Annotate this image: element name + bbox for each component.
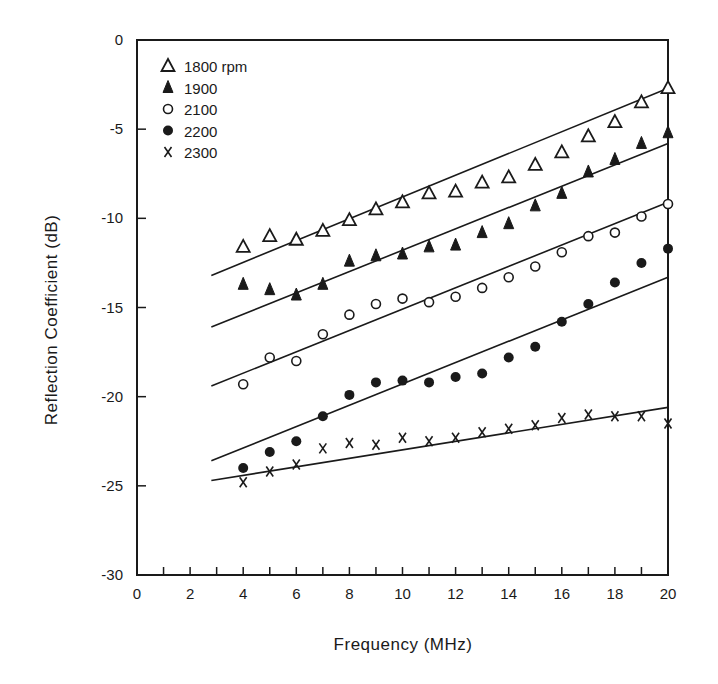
x-tick-label: 18 <box>607 585 624 602</box>
fit-line <box>211 202 668 386</box>
fit-line <box>211 277 668 461</box>
x-tick-label: 16 <box>553 585 570 602</box>
marker-filled-circle <box>663 244 673 254</box>
marker-open-triangle <box>162 59 175 71</box>
legend-label: 2300 <box>184 144 217 161</box>
marker-filled-triangle <box>663 126 673 138</box>
y-axis-title: Reflection Coefficient (dB) <box>42 215 61 426</box>
marker-open-triangle <box>369 202 382 214</box>
marker-filled-triangle <box>163 81 173 93</box>
marker-open-triangle <box>582 129 595 141</box>
marker-open-triangle <box>662 81 675 93</box>
marker-open-circle <box>239 380 248 389</box>
legend-item: 1800 rpm <box>162 58 248 75</box>
x-axis-ticks: 02468101214161820 <box>133 567 677 602</box>
marker-x <box>585 410 592 420</box>
marker-x <box>293 459 300 469</box>
marker-filled-circle <box>636 258 646 268</box>
marker-open-triangle <box>263 229 276 241</box>
legend: 1800 rpm1900210022002300 <box>162 58 248 161</box>
marker-filled-circle <box>557 317 567 327</box>
marker-filled-circle <box>163 126 173 136</box>
marker-open-circle <box>637 212 646 221</box>
y-axis-ticks: 0-5-10-15-20-25-30 <box>101 31 146 583</box>
marker-filled-triangle <box>504 217 514 229</box>
marker-x <box>346 438 353 448</box>
y-tick-label: -30 <box>101 566 123 583</box>
marker-filled-circle <box>318 411 328 421</box>
marker-filled-circle <box>398 376 408 386</box>
marker-open-triangle <box>316 224 329 236</box>
legend-label: 1800 rpm <box>184 58 247 75</box>
marker-open-triangle <box>608 115 621 127</box>
marker-x <box>372 440 379 450</box>
marker-open-triangle <box>343 213 356 225</box>
marker-filled-triangle <box>477 226 487 238</box>
marker-open-circle <box>610 228 619 237</box>
x-axis-title: Frequency (MHz) <box>334 635 473 654</box>
fit-line <box>211 88 668 275</box>
marker-open-circle <box>584 232 593 241</box>
fit-line <box>211 407 668 480</box>
y-tick-label: -10 <box>101 209 123 226</box>
marker-filled-triangle <box>265 283 275 295</box>
marker-open-circle <box>451 292 460 301</box>
marker-filled-triangle <box>530 199 540 211</box>
marker-filled-circle <box>291 436 301 446</box>
marker-x <box>426 436 433 446</box>
x-tick-label: 4 <box>239 585 247 602</box>
marker-filled-circle <box>344 390 354 400</box>
marker-filled-circle <box>610 278 620 288</box>
fit-lines <box>211 88 668 480</box>
series-2300 <box>240 410 672 488</box>
y-tick-label: -5 <box>110 120 123 137</box>
marker-open-triangle <box>449 185 462 197</box>
marker-filled-circle <box>424 377 434 387</box>
x-tick-label: 8 <box>345 585 353 602</box>
marker-filled-triangle <box>636 136 646 148</box>
marker-open-circle <box>371 299 380 308</box>
x-tick-label: 0 <box>133 585 141 602</box>
marker-filled-circle <box>371 377 381 387</box>
marker-x <box>638 411 645 421</box>
marker-open-triangle <box>237 240 250 252</box>
marker-open-circle <box>345 310 354 319</box>
marker-x <box>558 413 565 423</box>
chart-figure: 02468101214161820 0-5-10-15-20-25-30 180… <box>0 0 718 684</box>
marker-x <box>240 477 247 487</box>
marker-x <box>399 433 406 443</box>
marker-x <box>479 427 486 437</box>
series-2100 <box>239 200 673 389</box>
marker-open-circle <box>425 298 434 307</box>
legend-item: 2200 <box>163 123 217 140</box>
marker-open-circle <box>265 353 274 362</box>
legend-label: 1900 <box>184 80 217 97</box>
legend-item: 2300 <box>165 144 218 161</box>
marker-filled-circle <box>451 372 461 382</box>
series-1900 <box>238 126 673 300</box>
marker-x <box>165 147 172 157</box>
x-tick-label: 20 <box>660 585 677 602</box>
marker-filled-circle <box>265 447 275 457</box>
marker-filled-triangle <box>583 165 593 177</box>
marker-filled-triangle <box>238 277 248 289</box>
marker-open-triangle <box>555 145 568 157</box>
marker-filled-circle <box>504 352 514 362</box>
marker-x <box>319 443 326 453</box>
x-tick-label: 6 <box>292 585 300 602</box>
marker-open-circle <box>557 248 566 257</box>
marker-filled-circle <box>583 299 593 309</box>
y-tick-label: -20 <box>101 388 123 405</box>
marker-filled-triangle <box>371 249 381 261</box>
y-tick-label: -25 <box>101 477 123 494</box>
data-markers <box>237 81 675 487</box>
legend-item: 1900 <box>163 80 217 97</box>
x-tick-label: 2 <box>186 585 194 602</box>
marker-open-triangle <box>529 158 542 170</box>
x-tick-label: 14 <box>500 585 517 602</box>
marker-open-circle <box>531 262 540 271</box>
legend-label: 2200 <box>184 123 217 140</box>
marker-open-circle <box>664 200 673 209</box>
marker-open-circle <box>478 283 487 292</box>
marker-open-triangle <box>396 195 409 207</box>
